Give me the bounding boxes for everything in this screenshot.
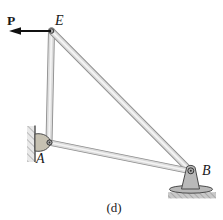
pin-b-center <box>190 170 192 172</box>
wall-hatch-lines <box>27 126 35 162</box>
force-arrow <box>9 27 51 35</box>
force-arrowhead <box>9 27 21 35</box>
wall-support-a <box>27 126 35 163</box>
member-EA <box>49 31 52 142</box>
label-node-e: E <box>54 13 64 28</box>
label-node-b: B <box>202 163 211 178</box>
figure-caption: (d) <box>106 200 121 215</box>
pin-a-center <box>49 142 51 144</box>
label-force-p: P <box>7 13 15 28</box>
label-node-a: A <box>35 151 45 166</box>
figure-frame-diagram: P E A B (d) <box>0 0 223 220</box>
diagram-canvas: P E A B (d) <box>0 0 223 220</box>
